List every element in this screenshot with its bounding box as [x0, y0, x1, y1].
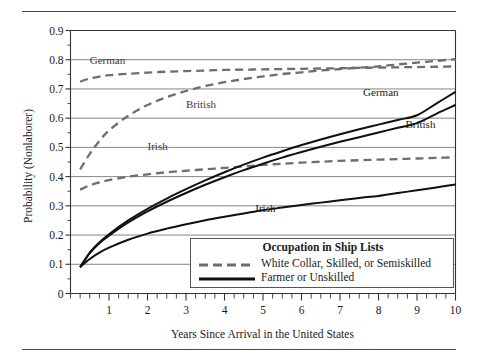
- chart-legend: Occupation in Ship Lists White Collar, S…: [190, 238, 454, 288]
- x-tick-label: 4: [213, 304, 237, 316]
- y-axis-ticks: [66, 31, 71, 294]
- series-annotation-german-solid: German: [363, 86, 398, 98]
- x-tick-label: 7: [328, 304, 352, 316]
- y-tick-label: 0.6: [30, 112, 64, 124]
- y-axis-title: Probability (Nonlaborer): [22, 76, 34, 256]
- legend-label-farmer: Farmer or Unskilled: [261, 271, 354, 283]
- series-line-german-dashed: [80, 66, 455, 81]
- figure-container: 00.10.20.30.40.50.60.70.80.9 12345678910…: [0, 0, 485, 361]
- series-annotation-british-solid: British: [405, 118, 435, 130]
- x-tick-label: 6: [290, 304, 314, 316]
- x-tick-label: 10: [444, 304, 468, 316]
- series-annotation-irish-solid: Irish: [255, 202, 275, 214]
- legend-title: Occupation in Ship Lists: [191, 241, 455, 253]
- x-tick-label: 1: [97, 304, 121, 316]
- x-axis-title: Years Since Arrival in the United States: [70, 328, 455, 340]
- x-tick-label: 9: [405, 304, 429, 316]
- x-axis-ticks: [71, 294, 456, 301]
- y-tick-label: 0.3: [30, 200, 64, 212]
- legend-label-white-collar: White Collar, Skilled, or Semiskilled: [261, 257, 431, 269]
- series-line-british-dashed: [80, 59, 455, 169]
- series-annotation-irish-dashed: Irish: [148, 140, 168, 152]
- y-tick-label: 0.1: [30, 258, 64, 270]
- y-tick-label: 0.9: [30, 25, 64, 37]
- x-tick-label: 5: [251, 304, 275, 316]
- y-tick-label: 0.7: [30, 83, 64, 95]
- y-tick-label: 0.4: [30, 171, 64, 183]
- y-tick-label: 0.5: [30, 141, 64, 153]
- y-tick-label: 0.2: [30, 229, 64, 241]
- legend-entry-farmer: Farmer or Unskilled: [199, 271, 451, 286]
- y-tick-label: 0: [30, 288, 64, 300]
- legend-swatch-dashed: [199, 263, 255, 267]
- series-annotation-british-dashed: British: [186, 98, 216, 110]
- legend-entry-white-collar: White Collar, Skilled, or Semiskilled: [199, 257, 451, 272]
- legend-swatch-solid: [199, 277, 255, 281]
- x-tick-label: 2: [136, 304, 160, 316]
- y-tick-label: 0.8: [30, 54, 64, 66]
- x-tick-label: 8: [367, 304, 391, 316]
- x-tick-label: 3: [174, 304, 198, 316]
- gridlines: [71, 31, 456, 265]
- series-paths: [80, 59, 455, 267]
- series-annotation-german-dashed: German: [90, 54, 125, 66]
